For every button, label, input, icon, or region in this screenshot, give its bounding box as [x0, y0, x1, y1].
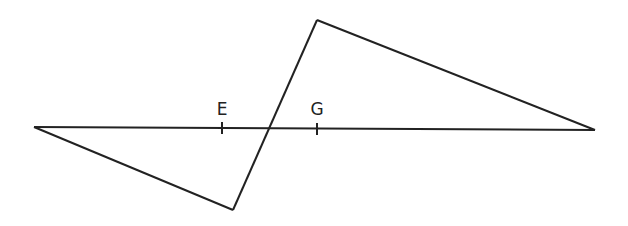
- geometry-diagram: E G: [0, 0, 628, 226]
- left-lower-side: [34, 127, 233, 210]
- label-E: E: [217, 99, 228, 119]
- crossing-segment: [233, 20, 317, 210]
- horizontal-segment: [34, 127, 595, 130]
- right-upper-side: [317, 20, 595, 130]
- label-G: G: [310, 99, 323, 119]
